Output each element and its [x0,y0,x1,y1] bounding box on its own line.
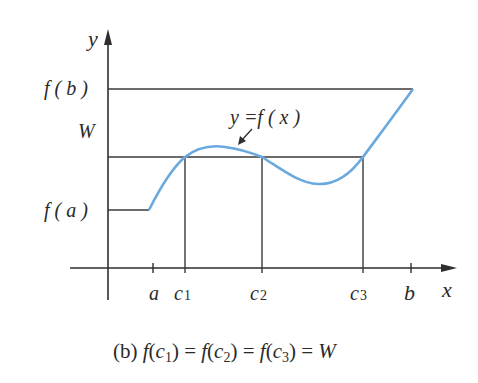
ivt-diagram: y x f ( b ) W f ( a ) a c1 c2 c3 b y =f … [0,0,478,383]
w-label: W [78,120,97,142]
a-label: a [149,282,159,304]
x-axis-label: x [441,277,452,302]
c3-label: c3 [350,282,367,304]
y-axis-label: y [86,26,98,51]
fb-label: f ( b ) [44,77,88,100]
b-label: b [404,280,415,305]
c1-label: c1 [174,282,191,304]
curve-label: y =f ( x ) [228,106,300,129]
c2-label: c2 [250,282,267,304]
fa-label: f ( a ) [44,199,88,222]
x-axis-arrow-icon [441,264,457,272]
y-axis-arrow-icon [104,29,112,45]
caption: (b) f(c1) = f(c2) = f(c3) = W [113,339,338,365]
